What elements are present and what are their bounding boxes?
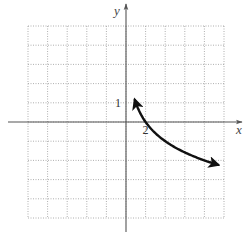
x-axis-label: x <box>235 122 242 137</box>
chart: x y 12 <box>0 0 246 233</box>
tick-label-y: 1 <box>115 96 121 110</box>
tick-labels: 12 <box>115 96 149 137</box>
y-axis-label: y <box>112 3 120 18</box>
